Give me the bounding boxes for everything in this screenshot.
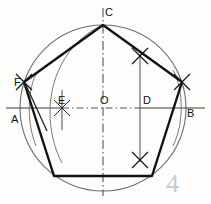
stray-stroke-f — [25, 83, 47, 131]
cross-mark-right — [174, 74, 190, 90]
label-point-c: C — [105, 6, 113, 18]
label-point-f: F — [14, 76, 21, 88]
label-point-e: E — [58, 94, 65, 106]
label-point-d: D — [143, 94, 151, 106]
geometry-figure: 4 — [0, 0, 211, 204]
exercise-number: 4 — [166, 169, 179, 198]
label-point-b: B — [187, 107, 194, 119]
label-point-a: A — [11, 113, 19, 125]
label-point-o: O — [100, 94, 109, 106]
drawing-canvas: 4 — [0, 0, 211, 204]
